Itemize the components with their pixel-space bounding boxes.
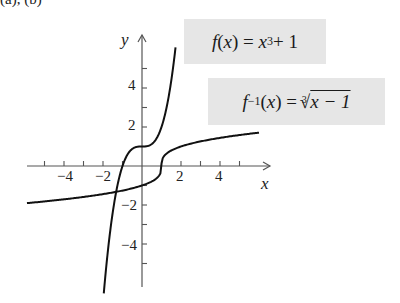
y-tick-label: 4 [128,77,136,94]
finv-arg: (x) = [261,91,302,113]
y-tick-label: −4 [121,237,137,254]
finv-label-box: f−1(x) = 3√x − 1 [208,78,385,125]
x-tick-label: −4 [57,168,73,185]
f-tail: + 1 [273,31,298,53]
x-tick-label: −2 [95,168,111,185]
f-curve [104,47,176,293]
y-tick-label: 2 [128,117,136,134]
x-tick-label: 2 [176,168,184,185]
y-axis-label: y [121,30,129,50]
finv-sup: −1 [248,94,261,109]
f-arg: (x) = [217,31,258,53]
y-tick-label: −2 [121,197,137,214]
finv-index: 3 [302,94,307,105]
finv-radicand: x − 1 [310,91,350,113]
x-tick-label: 4 [215,168,223,185]
x-axis-label: x [261,174,269,194]
f-base: x [259,31,267,53]
f-label-box: f(x) = x3 + 1 [184,19,326,64]
